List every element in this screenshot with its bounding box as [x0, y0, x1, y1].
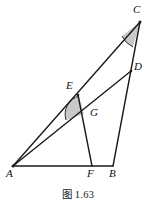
geometry-diagram: [0, 0, 156, 210]
vertex-label-F: F: [87, 168, 94, 179]
vertex-label-G: G: [90, 107, 98, 118]
vertex-dot-E: [77, 94, 80, 97]
vertex-label-E: E: [66, 80, 73, 91]
vertex-label-B: B: [109, 168, 116, 179]
vertex-label-C: C: [133, 4, 140, 15]
vertex-dot-C: [139, 21, 142, 24]
vertex-label-A: A: [6, 168, 13, 179]
vertex-label-D: D: [134, 61, 142, 72]
figure-caption: 图 1.63: [0, 188, 156, 201]
segment-AC: [13, 22, 140, 166]
segment-CB: [113, 22, 140, 166]
geometry-figure: A B C D E F G 图 1.63: [0, 0, 156, 210]
vertex-dot-D: [130, 70, 133, 73]
